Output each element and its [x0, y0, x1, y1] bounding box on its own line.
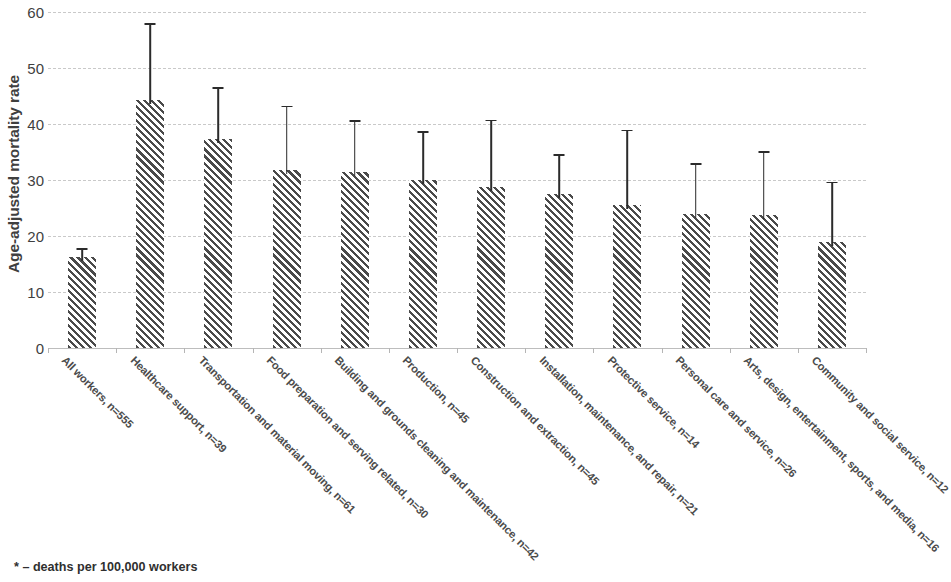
bar-group [253, 12, 321, 348]
error-bar-cap [417, 131, 428, 133]
bar-group [798, 12, 866, 348]
y-tick-label-40: 40 [14, 116, 44, 133]
bar [204, 139, 232, 348]
bar-group [48, 12, 116, 348]
error-bar [490, 120, 492, 192]
bar [682, 214, 710, 348]
bar-group [321, 12, 389, 348]
bar [341, 172, 369, 348]
bar-group [730, 12, 798, 348]
y-axis-tick-labels: 6050403020100 [8, 12, 44, 348]
x-axis-label: Transportation and material moving, n=61 [196, 354, 357, 515]
error-bar [81, 248, 83, 261]
y-tick-label-10: 10 [14, 284, 44, 301]
bar [409, 180, 437, 348]
bar [273, 170, 301, 348]
x-axis-label: Personal care and service, n=26 [673, 354, 798, 479]
x-axis-label: Installation, maintenance, and repair, n… [537, 354, 700, 517]
error-bar-cap [349, 120, 360, 122]
bar [613, 205, 641, 348]
error-bar-cap [213, 87, 224, 89]
error-bar [354, 120, 356, 176]
bar [750, 215, 778, 348]
bar [136, 100, 164, 348]
error-bar-cap [554, 154, 565, 156]
bar-group [457, 12, 525, 348]
bar [68, 257, 96, 348]
x-axis-label: Construction and extraction, n=45 [469, 354, 602, 487]
bar [818, 242, 846, 348]
bar-group [389, 12, 457, 348]
y-tick-label-60: 60 [14, 4, 44, 21]
error-bar [149, 23, 151, 104]
footnote: * – deaths per 100,000 workers [14, 560, 197, 574]
error-bar [286, 106, 288, 175]
y-tick-label-20: 20 [14, 228, 44, 245]
y-tick-label-50: 50 [14, 60, 44, 77]
error-bar [627, 130, 629, 209]
error-bar-cap [77, 248, 88, 250]
bar-group [184, 12, 252, 348]
x-axis-label: Production, n=45 [401, 354, 472, 425]
error-bar [695, 163, 697, 218]
bar [545, 194, 573, 348]
x-axis-label: All workers, n=555 [60, 354, 136, 430]
error-bar [831, 182, 833, 246]
plot-area [48, 12, 866, 348]
y-tick-label-0: 0 [14, 340, 44, 357]
error-bar [422, 131, 424, 184]
error-bar-cap [622, 130, 633, 132]
error-bar-cap [690, 163, 701, 165]
y-tick-label-30: 30 [14, 172, 44, 189]
bar-series [48, 12, 866, 348]
error-bar-cap [145, 23, 156, 25]
bar-group [116, 12, 184, 348]
x-axis-label: Food preparation and serving related, n=… [264, 354, 430, 520]
error-bar [763, 151, 765, 219]
bar-group [525, 12, 593, 348]
error-bar-cap [486, 120, 497, 122]
x-axis-label: Community and social service, n=12 [810, 354, 951, 495]
x-axis-category-labels: All workers, n=555Healthcare support, n=… [48, 348, 866, 548]
bar-group [662, 12, 730, 348]
error-bar-cap [281, 106, 292, 108]
bar [477, 187, 505, 348]
error-bar [558, 154, 560, 198]
bar-group [593, 12, 661, 348]
error-bar-cap [758, 151, 769, 153]
error-bar-cap [826, 182, 837, 184]
error-bar [218, 87, 220, 143]
x-axis-tick [866, 348, 867, 353]
